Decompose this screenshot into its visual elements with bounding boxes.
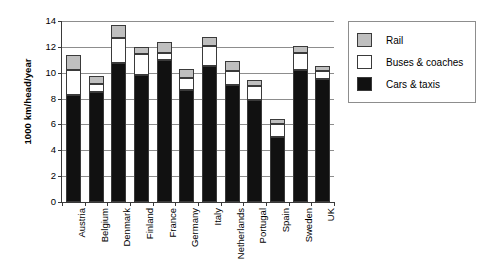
legend-label: Cars & taxis — [386, 79, 440, 90]
bar-segment-cars[interactable] — [247, 100, 262, 202]
bar-segment-cars[interactable] — [134, 75, 149, 202]
bar-segment-buses[interactable] — [179, 78, 194, 90]
bar-segment-buses[interactable] — [315, 71, 330, 79]
x-tick-mark — [153, 202, 154, 206]
bar-segment-buses[interactable] — [66, 70, 81, 95]
bar-segment-rail[interactable] — [179, 69, 194, 78]
x-tick-mark — [130, 202, 131, 206]
y-tick-label: 6 — [51, 120, 56, 130]
x-tick-mark — [198, 202, 199, 206]
legend-label: Rail — [386, 35, 403, 46]
y-tick-label: 10 — [45, 68, 56, 78]
x-tick-mark — [243, 202, 244, 206]
bar-segment-cars[interactable] — [157, 60, 172, 202]
bar-segment-cars[interactable] — [111, 63, 126, 202]
bar-group[interactable] — [202, 21, 217, 202]
x-tick-mark — [221, 202, 222, 206]
bar-group[interactable] — [89, 21, 104, 202]
bar-group[interactable] — [134, 21, 149, 202]
bar-segment-rail[interactable] — [270, 119, 285, 124]
x-axis-label: Netherlands — [236, 208, 246, 259]
bar-group[interactable] — [111, 21, 126, 202]
bar-segment-rail[interactable] — [293, 46, 308, 53]
bar-segment-buses[interactable] — [225, 71, 240, 85]
bar-group[interactable] — [247, 21, 262, 202]
bar-segment-cars[interactable] — [270, 137, 285, 202]
bar-segment-buses[interactable] — [247, 86, 262, 100]
legend-swatch-buses — [357, 55, 372, 69]
legend-swatch-rail — [357, 33, 372, 47]
x-tick-mark — [311, 202, 312, 206]
x-tick-mark — [107, 202, 108, 206]
x-tick-mark — [175, 202, 176, 206]
x-axis-label: Italy — [213, 208, 223, 225]
y-tick-label: 2 — [51, 171, 56, 181]
bar-segment-buses[interactable] — [293, 53, 308, 70]
y-tick-label: 8 — [51, 94, 56, 104]
x-axis-label: Austria — [77, 208, 87, 238]
bar-segment-cars[interactable] — [293, 70, 308, 202]
bar-segment-rail[interactable] — [66, 55, 81, 70]
legend-swatch-cars — [357, 77, 372, 91]
bar-segment-buses[interactable] — [89, 84, 104, 92]
legend-item[interactable]: Buses & coaches — [357, 51, 469, 73]
bar-segment-buses[interactable] — [270, 124, 285, 137]
bars-layer — [62, 21, 334, 202]
bar-segment-buses[interactable] — [157, 53, 172, 60]
x-tick-mark — [334, 202, 335, 206]
y-tick-label: 4 — [51, 146, 56, 156]
x-axis-label: Denmark — [122, 208, 132, 247]
bar-segment-rail[interactable] — [134, 47, 149, 54]
bar-group[interactable] — [179, 21, 194, 202]
y-axis-title: 1000 km/head/year — [22, 27, 33, 177]
bar-segment-rail[interactable] — [89, 76, 104, 84]
bar-segment-rail[interactable] — [247, 80, 262, 86]
x-tick-mark — [85, 202, 86, 206]
x-axis-label: France — [168, 208, 178, 238]
x-axis-label: Portugal — [258, 208, 268, 243]
y-tick-label: 14 — [45, 16, 56, 26]
x-axis-label: Sweden — [304, 208, 314, 242]
bar-segment-buses[interactable] — [111, 38, 126, 63]
bar-group[interactable] — [315, 21, 330, 202]
bar-segment-cars[interactable] — [89, 92, 104, 202]
bar-group[interactable] — [293, 21, 308, 202]
bar-group[interactable] — [270, 21, 285, 202]
bar-segment-rail[interactable] — [315, 66, 330, 71]
x-axis-label: Finland — [145, 208, 155, 239]
bar-segment-rail[interactable] — [111, 25, 126, 39]
bar-group[interactable] — [157, 21, 172, 202]
bar-group[interactable] — [66, 21, 81, 202]
x-axis-label: Spain — [281, 208, 291, 232]
legend-label: Buses & coaches — [386, 57, 463, 68]
x-axis-label: Belgium — [100, 208, 110, 242]
bar-segment-buses[interactable] — [134, 54, 149, 75]
bar-segment-cars[interactable] — [179, 90, 194, 202]
stacked-bar-chart: 1000 km/head/year 02468101214 AustriaBel… — [0, 0, 486, 280]
bar-segment-rail[interactable] — [225, 61, 240, 71]
y-tick-label: 12 — [45, 42, 56, 52]
bar-group[interactable] — [225, 21, 240, 202]
bar-segment-rail[interactable] — [157, 42, 172, 53]
legend-item[interactable]: Cars & taxis — [357, 73, 469, 95]
x-axis-label: Germany — [190, 208, 200, 247]
bar-segment-cars[interactable] — [315, 79, 330, 202]
x-axis-label: UK — [326, 208, 336, 221]
legend-item[interactable]: Rail — [357, 29, 469, 51]
x-tick-mark — [266, 202, 267, 206]
bar-segment-buses[interactable] — [202, 46, 217, 66]
x-tick-mark — [62, 202, 63, 206]
chart-legend: RailBuses & coachesCars & taxis — [348, 21, 476, 103]
bar-segment-cars[interactable] — [225, 85, 240, 202]
bar-segment-rail[interactable] — [202, 37, 217, 47]
bar-segment-cars[interactable] — [202, 66, 217, 202]
plot-area: 02468101214 — [61, 21, 334, 203]
y-tick-label: 0 — [51, 197, 56, 207]
x-tick-mark — [289, 202, 290, 206]
bar-segment-cars[interactable] — [66, 95, 81, 202]
